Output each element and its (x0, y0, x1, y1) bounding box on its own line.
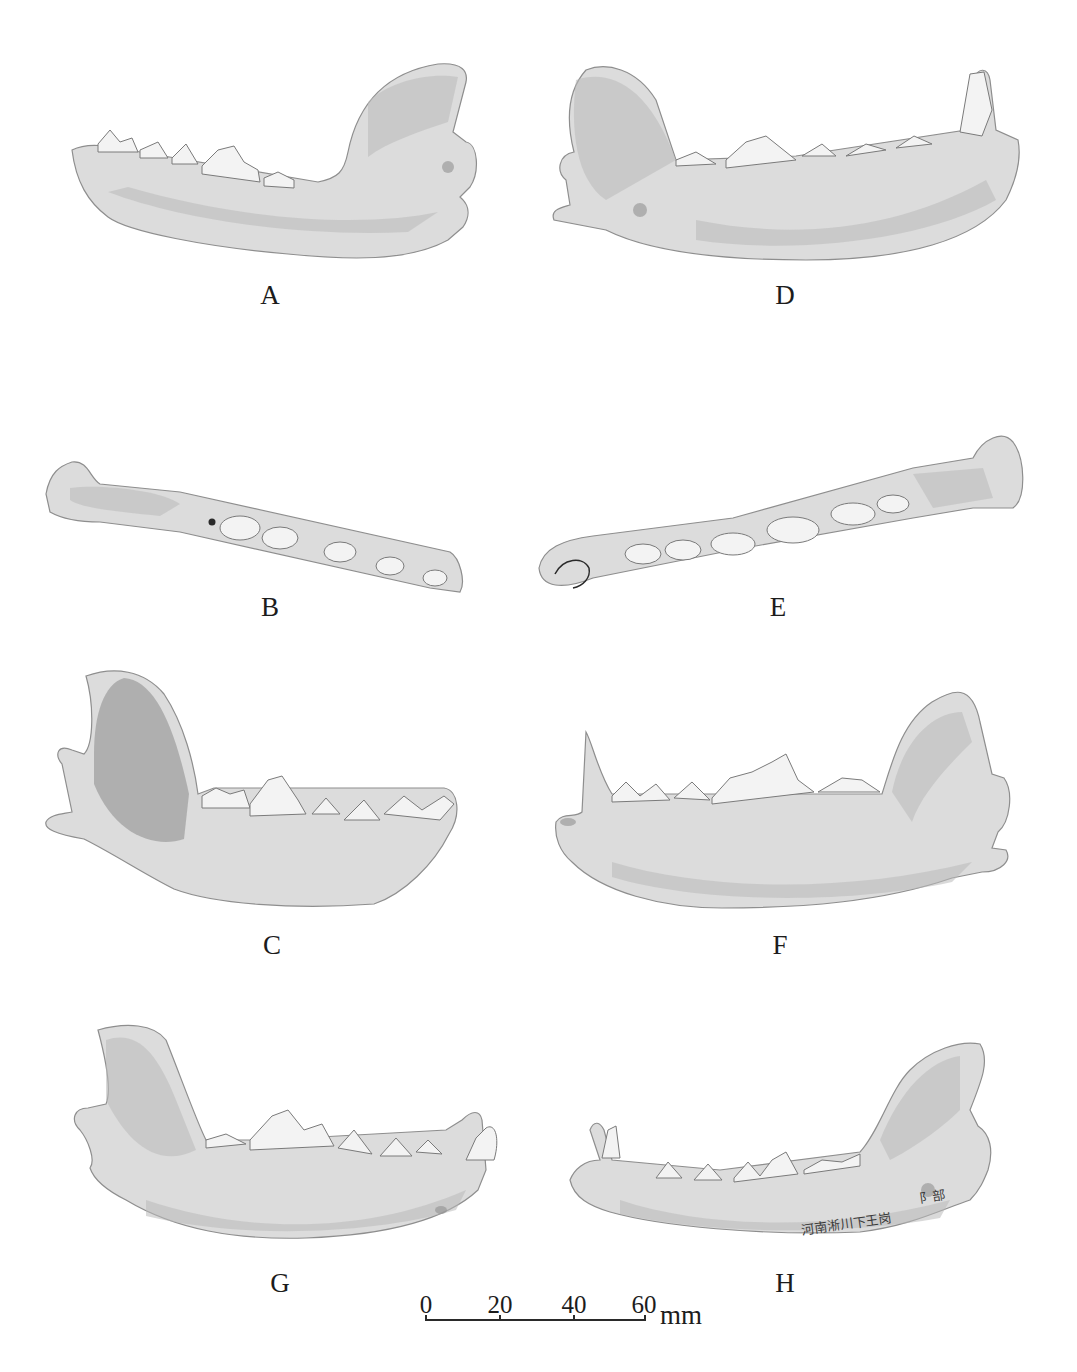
panel-label-a: A (260, 282, 280, 309)
specimen-h-mandible: 河南淅川下王岗 阝部 (560, 1030, 1000, 1240)
mandible-d-image (546, 60, 1024, 265)
specimen-a-mandible (68, 62, 488, 262)
panel-label-d: D (775, 282, 795, 309)
specimen-g-mandible (66, 1020, 496, 1242)
figure-plate: A D B (0, 0, 1077, 1372)
panel-label-f: F (772, 932, 787, 959)
panel-label-e: E (770, 594, 787, 621)
mandible-a-image (68, 62, 488, 262)
scale-tick-label-0: 0 (420, 1292, 433, 1317)
panel-label-h: H (775, 1270, 795, 1297)
scale-tick-label-60: 60 (632, 1292, 657, 1317)
specimen-inscription-2: 阝部 (918, 1184, 946, 1206)
specimen-e-mandible (533, 428, 1033, 600)
panel-label-g: G (270, 1270, 290, 1297)
mandible-c-image (44, 664, 464, 909)
mandible-h-image (560, 1030, 1000, 1240)
scale-unit: mm (660, 1302, 702, 1329)
scale-tick-label-40: 40 (562, 1292, 587, 1317)
scale-tick-0 (425, 1315, 427, 1321)
specimen-d-mandible (546, 60, 1024, 265)
scale-bar: 0 20 40 60 mm (418, 1292, 728, 1332)
specimen-b-mandible (40, 442, 470, 602)
specimen-c-mandible (44, 664, 464, 909)
specimen-f-mandible (552, 682, 1022, 912)
scale-tick-40 (573, 1315, 575, 1321)
scale-tick-label-20: 20 (488, 1292, 513, 1317)
panel-label-b: B (261, 594, 279, 621)
scale-line (425, 1319, 646, 1321)
scale-tick-60 (644, 1315, 646, 1321)
mandible-f-image (552, 682, 1022, 912)
mandible-b-image (40, 442, 470, 602)
mandible-g-image (66, 1020, 496, 1242)
mandible-e-image (533, 428, 1033, 600)
scale-tick-20 (499, 1315, 501, 1321)
panel-label-c: C (263, 932, 281, 959)
foramen-mark (209, 519, 216, 526)
